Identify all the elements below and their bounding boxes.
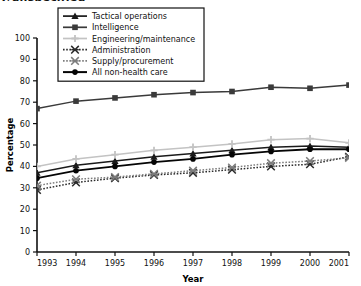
x-axis-tick-label: 1995 — [105, 259, 125, 268]
legend: Tactical operationsIntelligenceEngineeri… — [58, 8, 204, 81]
legend-label: All non-health care — [92, 68, 168, 77]
data-point-marker — [229, 89, 235, 95]
x-axis-tick-label: 2001 — [329, 259, 349, 268]
data-point-marker — [267, 136, 274, 143]
legend-label: Supply/procurement — [92, 57, 173, 66]
data-point-marker — [268, 149, 274, 155]
data-point-marker — [306, 135, 313, 142]
y-axis-tick-label: 100 — [15, 34, 30, 43]
y-axis-tick-label: 40 — [20, 162, 30, 171]
legend-label: Tactical operations — [91, 12, 167, 21]
data-point-marker — [34, 175, 40, 181]
x-axis-tick-label: 1994 — [66, 259, 86, 268]
data-point-marker — [190, 90, 196, 96]
line-chart: 0102030405060708090100199319941995199619… — [0, 0, 361, 286]
legend-label: Engineering/maintenance — [92, 35, 195, 44]
y-axis-tick-label: 90 — [20, 55, 30, 64]
data-point-marker — [73, 168, 79, 174]
x-axis-tick-label: 2000 — [300, 259, 320, 268]
x-axis-tick-label: 1999 — [261, 259, 281, 268]
data-point-marker — [228, 140, 235, 147]
data-point-marker — [73, 98, 79, 104]
y-axis-tick-label: 70 — [20, 98, 30, 107]
series-intelligence — [34, 82, 352, 111]
y-axis-tick-label: 60 — [20, 120, 30, 129]
series-line — [37, 158, 349, 186]
y-axis-tick-label: 80 — [20, 77, 30, 86]
x-axis-tick-label: 1997 — [183, 259, 203, 268]
data-point-marker — [268, 84, 274, 90]
data-point-marker — [72, 155, 79, 162]
y-axis-tick-label: 30 — [20, 184, 30, 193]
y-axis-tick-label: 20 — [20, 205, 30, 214]
x-axis-tick-label: 1993 — [37, 259, 57, 268]
y-axis-title: Percentage — [5, 117, 15, 172]
series-line — [37, 85, 349, 109]
y-axis-tick-label: 50 — [20, 141, 30, 150]
y-axis-tick-label: 10 — [20, 227, 30, 236]
data-point-marker — [346, 82, 352, 88]
data-point-marker — [190, 156, 196, 162]
legend-label: Administration — [92, 46, 151, 55]
x-axis-title: Year — [181, 274, 204, 284]
data-point-marker — [34, 106, 40, 112]
data-point-marker — [229, 152, 235, 158]
data-point-marker — [111, 151, 118, 158]
data-point-marker — [150, 147, 157, 154]
data-point-marker — [346, 146, 352, 152]
x-axis-tick-label: 1998 — [222, 259, 242, 268]
data-point-marker — [307, 85, 313, 91]
series-group — [33, 82, 353, 193]
data-point-marker — [345, 139, 352, 146]
data-point-marker — [307, 146, 313, 152]
data-point-marker — [151, 159, 157, 165]
legend-label: Intelligence — [92, 23, 139, 32]
x-axis-tick-label: 1996 — [144, 259, 164, 268]
data-point-marker — [72, 25, 78, 31]
data-point-marker — [112, 164, 118, 170]
chart-container: y/unspecified 01020304050607080901001993… — [0, 0, 361, 286]
data-point-marker — [189, 144, 196, 151]
data-point-marker — [112, 95, 118, 101]
data-point-marker — [72, 69, 78, 75]
data-point-marker — [151, 92, 157, 98]
y-axis-tick-label: 0 — [25, 248, 30, 257]
